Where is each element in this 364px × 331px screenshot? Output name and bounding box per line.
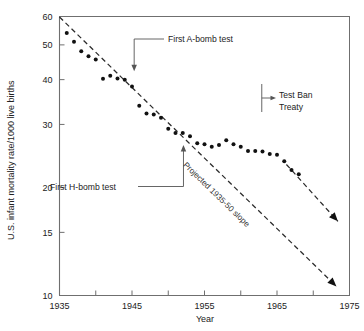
- data-point: [246, 149, 250, 153]
- x-tick-label-1935: 1935: [49, 301, 69, 311]
- data-point: [181, 131, 185, 135]
- data-point: [297, 172, 301, 176]
- data-point: [137, 104, 141, 108]
- data-point: [282, 159, 286, 163]
- data-point: [268, 152, 272, 156]
- data-point: [166, 127, 170, 131]
- data-point: [65, 31, 69, 35]
- data-point: [116, 76, 120, 80]
- y-tick-label-50: 50: [42, 40, 52, 50]
- y-tick-label-10: 10: [42, 291, 52, 301]
- data-point: [79, 49, 83, 53]
- x-tick-label-1965: 1965: [267, 301, 287, 311]
- data-point: [152, 112, 156, 116]
- data-point: [275, 153, 279, 157]
- data-point: [261, 150, 265, 154]
- data-point: [145, 111, 149, 115]
- annotation-label-test-ban-line1: Test Ban: [279, 90, 313, 100]
- x-axis-title: Year: [196, 314, 214, 324]
- y-tick-label-40: 40: [42, 75, 52, 85]
- infant-mortality-scatter-chart: 10152030405060 19351945195519651975 Firs…: [0, 0, 364, 331]
- y-axis-title: U.S. infant mortality rate/1000 live bir…: [6, 80, 16, 240]
- data-point: [108, 74, 112, 78]
- chart-container: 10152030405060 19351945195519651975 Firs…: [0, 0, 364, 331]
- data-point: [224, 138, 228, 142]
- data-point: [217, 143, 221, 147]
- data-point: [130, 84, 134, 88]
- annotation-label-a-bomb: First A-bomb test: [168, 34, 234, 44]
- x-tick-label-1945: 1945: [122, 301, 142, 311]
- data-point: [72, 40, 76, 44]
- x-tick-label-1975: 1975: [339, 301, 359, 311]
- data-point: [123, 78, 127, 82]
- data-point: [159, 116, 163, 120]
- annotation-label-h-bomb: First H-bomb test: [50, 182, 117, 192]
- data-point: [188, 134, 192, 138]
- data-point: [210, 145, 214, 149]
- x-tick-label-1955: 1955: [194, 301, 214, 311]
- data-point: [101, 77, 105, 81]
- data-point: [203, 142, 207, 146]
- y-tick-label-30: 30: [42, 120, 52, 130]
- data-point: [239, 145, 243, 149]
- data-point: [94, 58, 98, 62]
- y-tick-label-15: 15: [42, 228, 52, 238]
- data-point: [232, 142, 236, 146]
- data-point: [253, 149, 257, 153]
- annotation-label-test-ban-line2: Treaty: [279, 102, 304, 112]
- y-tick-label-60: 60: [42, 12, 52, 22]
- data-point: [195, 141, 199, 145]
- data-point: [87, 54, 91, 58]
- data-point: [174, 131, 178, 135]
- data-point: [290, 168, 294, 172]
